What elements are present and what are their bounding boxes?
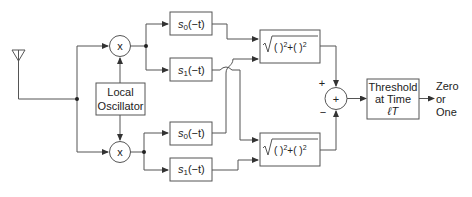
mixer-bottom-label: x — [117, 146, 123, 158]
output-line3: One — [436, 106, 457, 118]
output-line1: Zero — [436, 80, 459, 92]
filter-bottom-s1-label: s1(−t) — [178, 163, 205, 177]
envelope-top-expr: ( )2+( )2 — [274, 41, 307, 53]
threshold-line3: ℓT — [387, 105, 400, 117]
local-oscillator-line2: Oscillator — [98, 100, 144, 112]
receiver-diagram: x x Local Oscillator s0(−t) s1(−t) s0(−t… — [0, 0, 472, 197]
antenna-icon — [12, 50, 25, 99]
threshold-line2: at Time — [375, 93, 411, 105]
summer-sign-minus: − — [320, 106, 326, 118]
local-oscillator-line1: Local — [107, 86, 133, 98]
threshold-line1: Threshold — [369, 81, 418, 93]
filter-bottom-s0-label: s0(−t) — [178, 127, 205, 141]
envelope-bottom-expr: ( )2+( )2 — [274, 144, 307, 156]
filter-top-s0-label: s0(−t) — [178, 18, 205, 32]
summer-label: + — [333, 93, 339, 105]
filter-top-s1-label: s1(−t) — [178, 64, 205, 78]
summer-sign-plus: + — [319, 77, 325, 89]
output-line2: or — [436, 93, 446, 105]
mixer-top-label: x — [117, 40, 123, 52]
